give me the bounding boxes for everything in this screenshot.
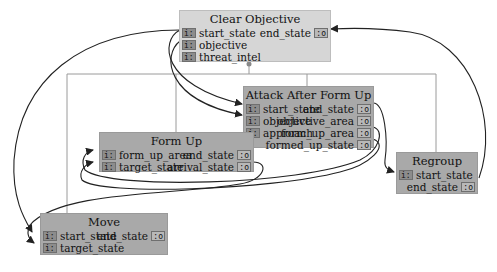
port-row: i: start_state (397, 168, 477, 180)
output-port[interactable]: :o (357, 104, 371, 114)
port-row: i: target_state arrival_state :o (100, 160, 253, 172)
input-port[interactable]: i: (182, 40, 196, 50)
port-row: i: objective (180, 38, 330, 50)
port-row: i: start_state end_state :o (244, 102, 373, 114)
input-port[interactable]: i: (182, 28, 196, 38)
port-label: arrival_state (167, 161, 234, 173)
port-row: i: start_state end_state :o (41, 229, 167, 241)
node-regroup[interactable]: Regroup i: start_state end_state :o (396, 152, 478, 194)
output-port[interactable]: :o (314, 28, 328, 38)
input-port[interactable]: i: (102, 162, 116, 172)
input-port[interactable]: i: (246, 104, 260, 114)
port-row: i: start_state end_state :o (180, 26, 330, 38)
node-clear-objective[interactable]: Clear Objective i: start_state end_state… (179, 10, 331, 62)
output-port[interactable]: :o (357, 140, 371, 150)
output-port[interactable]: :o (237, 150, 251, 160)
node-attack-after-form-up[interactable]: Attack After Form Up i: start_state end_… (243, 86, 374, 148)
input-port[interactable]: i: (102, 150, 116, 160)
port-row: i: approach form_up_area :o (244, 126, 373, 138)
input-port[interactable]: i: (182, 52, 196, 62)
input-port[interactable]: i: (399, 170, 413, 180)
node-title: Attack After Form Up (244, 87, 373, 102)
port-row: i: form_up_area end_state :o (100, 148, 253, 160)
input-port[interactable]: i: (246, 116, 260, 126)
input-port[interactable]: i: (43, 243, 57, 253)
output-port[interactable]: :o (357, 116, 371, 126)
port-label: end_state (407, 181, 458, 193)
port-row: i: target_state (41, 241, 167, 253)
port-row: i: threat_intel (180, 50, 330, 62)
node-title: Clear Objective (180, 11, 330, 26)
node-title: Move (41, 214, 167, 229)
node-form-up[interactable]: Form Up i: form_up_area end_state :o i: … (99, 132, 254, 172)
node-title: Form Up (100, 133, 253, 148)
port-row: i: objective objective_area :o (244, 114, 373, 126)
output-port[interactable]: :o (357, 128, 371, 138)
port-label: target_state (60, 242, 124, 254)
output-port[interactable]: :o (151, 231, 165, 241)
output-port[interactable]: :o (461, 182, 475, 192)
output-port[interactable]: :o (237, 162, 251, 172)
port-label: formed_up_state (266, 139, 354, 151)
port-row: formed_up_state :o (244, 138, 373, 150)
input-port[interactable]: i: (43, 231, 57, 241)
node-move[interactable]: Move i: start_state end_state :o i: targ… (40, 213, 168, 255)
port-row: end_state :o (397, 180, 477, 192)
node-title: Regroup (397, 153, 477, 168)
port-label: threat_intel (199, 51, 261, 63)
